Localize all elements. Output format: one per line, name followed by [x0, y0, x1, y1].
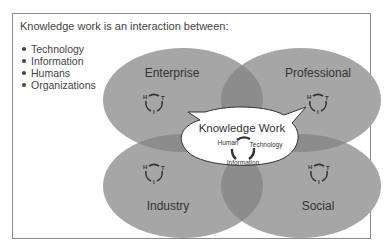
center-human: Human: [218, 139, 239, 146]
svg-text:T: T: [326, 165, 330, 171]
label-professional: Professional: [285, 66, 351, 80]
center-title: Knowledge Work: [199, 122, 286, 134]
center-technology: Technology: [250, 141, 284, 149]
svg-text:T: T: [161, 165, 165, 171]
label-industry: Industry: [147, 199, 190, 213]
svg-text:H: H: [143, 94, 147, 100]
svg-text:H: H: [308, 164, 312, 170]
label-enterprise: Enterprise: [145, 66, 200, 80]
svg-text:T: T: [161, 95, 165, 101]
venn-diagram: Enterprise Professional Industry Social …: [0, 0, 385, 249]
center-information: Information: [227, 159, 260, 166]
svg-text:H: H: [143, 164, 147, 170]
svg-text:T: T: [325, 95, 329, 101]
label-social: Social: [302, 199, 335, 213]
svg-text:H: H: [307, 94, 311, 100]
